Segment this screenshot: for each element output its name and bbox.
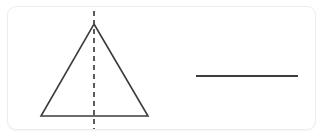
screenshot-stage [0, 0, 333, 140]
geometry-figure [0, 0, 333, 140]
